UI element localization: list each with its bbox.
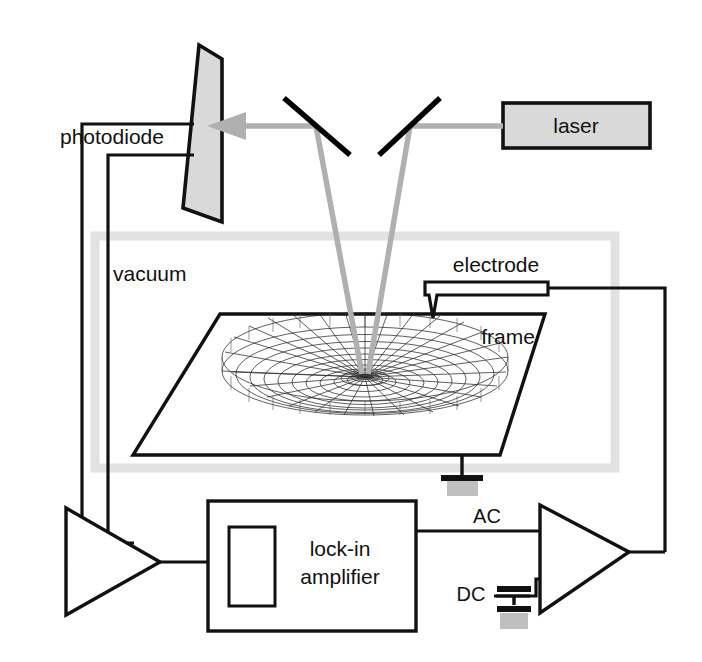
photodiode-wire-lower	[108, 155, 194, 543]
photodiode-plate	[183, 45, 222, 222]
ac-label: AC	[473, 505, 501, 527]
diagram-root: vacuum frame	[0, 0, 702, 662]
amplifier-right	[540, 505, 629, 613]
laser-label: laser	[553, 114, 599, 137]
dc-label: DC	[457, 583, 486, 605]
lockin-label-line1: lock-in	[310, 537, 371, 560]
frame-label: frame	[481, 325, 535, 348]
ground-frame	[441, 455, 483, 496]
electrode-label: electrode	[453, 253, 539, 276]
setup-diagram: vacuum frame	[0, 0, 702, 662]
lockin-reference-display	[229, 527, 275, 606]
photodiode-label: photodiode	[60, 125, 164, 148]
lockin-label-line2: amplifier	[300, 565, 379, 588]
vacuum-label: vacuum	[113, 262, 187, 285]
electrode-wire	[548, 288, 665, 552]
ground-dc	[500, 613, 528, 629]
amplifier-left	[66, 508, 160, 615]
capacitor	[496, 589, 531, 609]
